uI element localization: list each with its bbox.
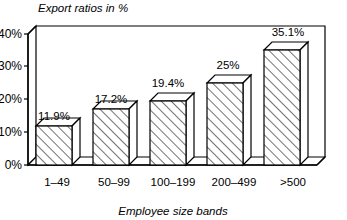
- bar-front-face-1: [36, 126, 72, 165]
- bar-group-1: 11.9%: [36, 110, 80, 165]
- chart-canvas: 0% 10% 20% 30% 40% Export ratios in % Em…: [0, 0, 347, 220]
- category-label-3: 100–199: [151, 176, 196, 188]
- y-tick-label-40: 40%: [0, 27, 22, 41]
- y-tick-label-30: 30%: [0, 59, 22, 73]
- bar-value-label-1: 11.9%: [38, 110, 70, 122]
- bar-value-label-3: 19.4%: [152, 77, 185, 89]
- bar-side-face-2: [129, 101, 137, 165]
- y-tick-label-20: 20%: [0, 92, 22, 106]
- category-label-4: 200–499: [212, 176, 257, 188]
- bar-side-face-3: [186, 93, 194, 165]
- bar-side-face-4: [243, 75, 251, 165]
- y-tick-label-0: 0%: [5, 158, 23, 172]
- bar-value-label-5: 35.1%: [272, 26, 305, 38]
- bar-front-face-5: [264, 50, 300, 165]
- y-tick-label-10: 10%: [0, 125, 22, 139]
- bar-front-face-3: [150, 101, 186, 165]
- category-label-2: 50–99: [98, 176, 130, 188]
- bar-value-label-2: 17.2%: [95, 93, 128, 105]
- category-label-5: >500: [280, 176, 306, 188]
- bar-group-5: 35.1%: [264, 26, 308, 165]
- bar-front-face-4: [207, 83, 243, 165]
- bar-value-label-4: 25%: [216, 59, 239, 71]
- x-axis-category-labels: 1–49 50–99 100–199 200–499 >500: [44, 176, 306, 188]
- bar-front-face-2: [93, 109, 129, 165]
- y-axis-title: Export ratios in %: [38, 2, 128, 14]
- y-axis-tick-labels: 0% 10% 20% 30% 40%: [0, 27, 22, 172]
- export-ratio-bar-chart: 0% 10% 20% 30% 40% Export ratios in % Em…: [0, 0, 347, 220]
- bar-side-face-1: [72, 118, 80, 165]
- bar-side-face-5: [300, 42, 308, 165]
- x-axis-title: Employee size bands: [118, 205, 228, 217]
- bar-group-2: 17.2%: [93, 93, 137, 165]
- left-wall: [28, 26, 36, 165]
- category-label-1: 1–49: [44, 176, 70, 188]
